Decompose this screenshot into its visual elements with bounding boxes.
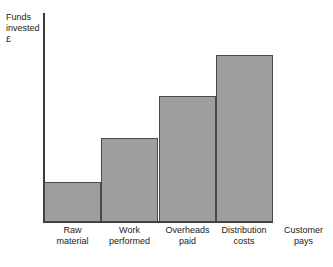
x-axis-labels: Raw material Work performed Overheads pa… — [0, 225, 333, 255]
bar-work-performed — [101, 138, 158, 222]
bar-chart-figure: Funds invested £ Raw material Work perfo… — [0, 0, 333, 267]
bar-overheads-paid — [159, 96, 216, 222]
bar-distribution-costs — [216, 55, 273, 222]
cropped-caption-fragment — [8, 0, 308, 5]
x-label-distribution-costs: Distribution costs — [211, 225, 277, 247]
x-label-work-performed: Work performed — [96, 225, 163, 247]
x-label-raw-material: Raw material — [41, 225, 104, 247]
x-label-customer-pays: Customer pays — [276, 225, 331, 247]
bar-raw-material — [44, 182, 101, 222]
y-axis-label: Funds invested £ — [6, 12, 42, 45]
x-label-overheads-paid: Overheads paid — [156, 225, 219, 247]
plot-area — [44, 13, 272, 222]
